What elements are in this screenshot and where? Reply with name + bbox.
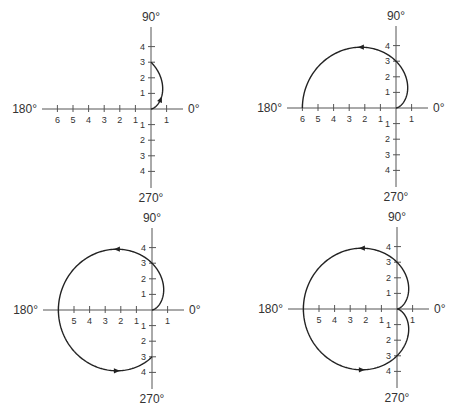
y-tick-label: 1 <box>140 120 145 130</box>
cardioid-curve <box>302 47 407 108</box>
angle-label-90: 90° <box>143 211 161 225</box>
y-tick-label: 4 <box>140 166 145 176</box>
x-tick-label: 1 <box>134 316 139 326</box>
direction-arrow-icon <box>114 247 120 252</box>
x-tick-label: 2 <box>117 115 122 125</box>
x-tick-label: 4 <box>86 115 91 125</box>
polar-plot-4: 0°90°180°270°54321112341234 <box>258 210 446 405</box>
y-tick-label: 2 <box>386 273 391 283</box>
x-tick-label: 1 <box>378 114 383 124</box>
x-tick-label: 4 <box>331 114 336 124</box>
y-tick-label: 3 <box>385 150 390 160</box>
x-tick-label: 2 <box>363 315 368 325</box>
angle-label-180: 180° <box>12 102 37 116</box>
x-tick-label: 4 <box>87 316 92 326</box>
polar-plots-figure: 0°90°180°270°654321112341234 0°90°180°27… <box>0 0 453 414</box>
y-tick-label: 2 <box>140 73 145 83</box>
y-tick-label: 2 <box>141 274 146 284</box>
polar-plot-1: 0°90°180°270°654321112341234 <box>12 10 200 205</box>
direction-arrow-icon <box>358 45 364 50</box>
angle-label-0: 0° <box>189 303 201 317</box>
x-tick-label: 1 <box>133 115 138 125</box>
y-tick-label: 4 <box>141 367 146 377</box>
x-tick-label: 4 <box>332 315 337 325</box>
y-tick-label: 2 <box>385 134 390 144</box>
x-tick-label: 3 <box>347 114 352 124</box>
y-tick-label: 3 <box>386 257 391 267</box>
y-tick-label: 4 <box>386 366 391 376</box>
y-tick-label: 1 <box>386 288 391 298</box>
y-tick-label: 4 <box>140 42 145 52</box>
angle-label-90: 90° <box>387 9 405 23</box>
x-tick-label: 3 <box>103 316 108 326</box>
y-tick-label: 4 <box>385 41 390 51</box>
y-tick-label: 4 <box>385 165 390 175</box>
x-tick-label: 5 <box>71 316 76 326</box>
x-tick-label: 5 <box>315 114 320 124</box>
y-tick-label: 4 <box>141 243 146 253</box>
y-tick-label: 3 <box>385 56 390 66</box>
y-tick-label: 4 <box>386 242 391 252</box>
y-tick-label: 1 <box>141 289 146 299</box>
angle-label-0: 0° <box>188 102 200 116</box>
y-tick-label: 3 <box>140 151 145 161</box>
angle-label-90: 90° <box>388 210 406 224</box>
angle-label-0: 0° <box>434 302 446 316</box>
x-tick-label: 5 <box>70 115 75 125</box>
y-tick-label: 1 <box>141 321 146 331</box>
x-tick-label: 1 <box>164 115 169 125</box>
angle-label-90: 90° <box>142 10 160 24</box>
x-tick-label: 5 <box>316 315 321 325</box>
x-tick-label: 3 <box>348 315 353 325</box>
angle-label-270: 270° <box>384 190 409 204</box>
angle-label-270: 270° <box>140 392 165 406</box>
angle-label-180: 180° <box>257 101 282 115</box>
direction-arrow-icon <box>359 367 365 372</box>
y-tick-label: 1 <box>140 88 145 98</box>
y-tick-label: 2 <box>386 335 391 345</box>
angle-label-270: 270° <box>385 391 410 405</box>
polar-plot-2: 0°90°180°270°654321112341234 <box>257 9 445 204</box>
polar-plot-3: 0°90°180°270°54321112341234 <box>13 211 201 406</box>
y-tick-label: 2 <box>140 135 145 145</box>
y-tick-label: 1 <box>386 320 391 330</box>
y-tick-label: 1 <box>385 119 390 129</box>
y-tick-label: 1 <box>385 87 390 97</box>
y-tick-label: 2 <box>141 336 146 346</box>
x-tick-label: 2 <box>118 316 123 326</box>
x-tick-label: 6 <box>300 114 305 124</box>
y-tick-label: 3 <box>141 258 146 268</box>
y-tick-label: 3 <box>140 57 145 67</box>
direction-arrow-icon <box>157 97 162 104</box>
x-tick-label: 1 <box>409 114 414 124</box>
x-tick-label: 1 <box>379 315 384 325</box>
y-tick-label: 3 <box>141 352 146 362</box>
direction-arrow-icon <box>114 368 120 373</box>
x-tick-label: 1 <box>165 316 170 326</box>
x-tick-label: 6 <box>55 115 60 125</box>
angle-label-270: 270° <box>139 191 164 205</box>
angle-label-0: 0° <box>433 101 445 115</box>
angle-label-180: 180° <box>258 302 283 316</box>
y-tick-label: 2 <box>385 72 390 82</box>
angle-label-180: 180° <box>13 303 38 317</box>
x-tick-label: 3 <box>102 115 107 125</box>
x-tick-label: 1 <box>410 315 415 325</box>
y-tick-label: 3 <box>386 351 391 361</box>
direction-arrow-icon <box>359 246 365 251</box>
x-tick-label: 2 <box>362 114 367 124</box>
